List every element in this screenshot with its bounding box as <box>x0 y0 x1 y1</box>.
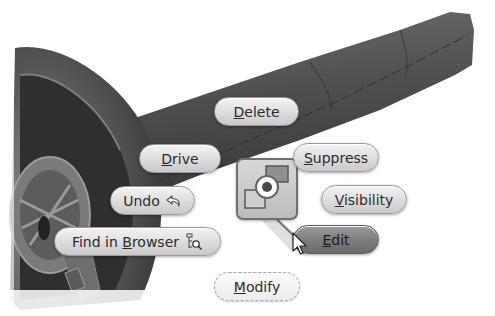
edit-label: Edit <box>322 232 349 248</box>
undo-button[interactable]: Undo <box>110 186 195 215</box>
delete-button[interactable]: Delete <box>214 97 299 126</box>
undo-label: Undo <box>123 193 160 209</box>
suppress-button[interactable]: Suppress <box>293 143 379 172</box>
visibility-label: Visibility <box>335 192 394 208</box>
mouse-cursor-icon <box>292 232 310 258</box>
part-feature-icon <box>238 160 296 218</box>
modify-label: Modify <box>234 279 280 295</box>
modify-button[interactable]: Modify <box>214 272 300 301</box>
suppress-label: Suppress <box>304 150 368 166</box>
drive-label: Drive <box>161 151 198 167</box>
undo-arrow-icon <box>166 194 182 208</box>
visibility-button[interactable]: Visibility <box>321 185 407 214</box>
marking-menu-center[interactable] <box>236 158 298 220</box>
find-in-browser-label: Find in Browser <box>72 234 179 250</box>
find-in-browser-button[interactable]: Find in Browser <box>54 227 221 256</box>
find-in-browser-icon <box>185 233 203 251</box>
delete-label: Delete <box>234 104 280 120</box>
drive-button[interactable]: Drive <box>139 144 221 173</box>
graphics-viewport[interactable]: Delete Drive Suppress Undo Visibility Fi… <box>0 0 495 316</box>
